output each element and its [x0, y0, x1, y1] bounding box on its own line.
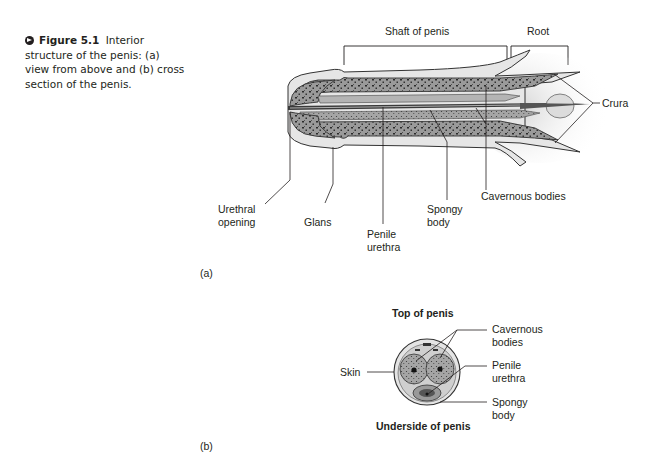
root-label: Root: [527, 25, 549, 38]
label-line-2: body: [492, 409, 528, 422]
penile-urethra-label-b: Penile urethra: [492, 359, 525, 384]
label-line-1: Urethral: [218, 203, 255, 216]
top-of-penis-label: Top of penis: [392, 307, 454, 320]
cavernous-bodies-label: Cavernous bodies: [481, 190, 566, 203]
panel-a-label: (a): [200, 267, 213, 280]
anatomy-illustration: [0, 0, 659, 466]
panel-b-label: (b): [200, 440, 213, 453]
label-line-2: urethra: [492, 372, 525, 385]
crura-label: Crura: [602, 97, 628, 110]
label-line-2: urethra: [367, 241, 400, 254]
label-line-1: Spongy: [427, 203, 463, 216]
skin-label: Skin: [340, 366, 360, 379]
label-line-1: Spongy: [492, 396, 528, 409]
label-line-1: Penile: [367, 228, 400, 241]
label-line-2: body: [427, 216, 463, 229]
label-line-2: bodies: [492, 336, 543, 349]
shaft-label: Shaft of penis: [385, 25, 449, 38]
label-line-1: Penile: [492, 359, 525, 372]
label-line-2: opening: [218, 216, 255, 229]
urethral-opening-label: Urethral opening: [218, 203, 255, 228]
cross-section: [394, 339, 460, 405]
spongy-body-label: Spongy body: [427, 203, 463, 228]
glans-label: Glans: [304, 216, 331, 229]
underside-of-penis-label: Underside of penis: [376, 420, 471, 433]
label-line-1: Cavernous: [492, 323, 543, 336]
cavernous-bodies-label-b: Cavernous bodies: [492, 323, 543, 348]
penile-urethra-label: Penile urethra: [367, 228, 400, 253]
spongy-body-label-b: Spongy body: [492, 396, 528, 421]
